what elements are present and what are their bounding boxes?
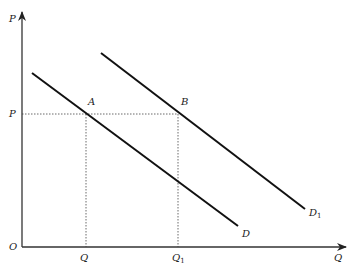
x-axis-label: Q — [334, 253, 342, 263]
q-label: Q — [80, 253, 88, 263]
q1-label: Q1 — [172, 253, 185, 265]
point-a-label: A — [88, 97, 95, 107]
curve-d-label: D — [242, 229, 250, 239]
demand-curve-d1 — [101, 53, 305, 209]
point-b-label: B — [181, 97, 188, 107]
price-label: P — [9, 109, 16, 119]
origin-label: O — [9, 242, 17, 252]
curve-d1-label: D1 — [309, 208, 322, 220]
y-axis-label: P — [9, 14, 16, 24]
demand-curve-d — [32, 73, 238, 226]
demand-shift-diagram — [0, 0, 351, 275]
